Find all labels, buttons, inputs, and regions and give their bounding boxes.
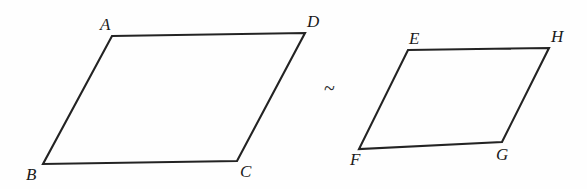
vertex-label-b: B	[26, 166, 36, 183]
vertex-label-g: G	[496, 146, 508, 163]
vertex-label-d: D	[307, 13, 319, 30]
vertex-label-h: H	[551, 28, 563, 45]
vertex-label-a: A	[100, 16, 110, 33]
similar-parallelograms-figure: ~ A D C B E H G F	[0, 0, 587, 189]
vertex-label-c: C	[240, 163, 251, 180]
vertex-label-f: F	[350, 151, 360, 168]
vertex-label-e: E	[409, 30, 419, 47]
similarity-symbol: ~	[324, 78, 335, 98]
